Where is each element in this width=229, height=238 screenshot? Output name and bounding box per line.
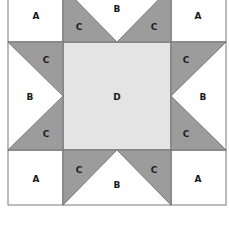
label-c-bottom-left: C	[76, 165, 83, 175]
label-b-left: B	[27, 92, 34, 102]
square-a-top-right	[171, 0, 226, 42]
label-b-top: B	[114, 4, 121, 14]
label-c-top-left: C	[76, 22, 83, 32]
label-d-center: D	[113, 92, 120, 102]
label-c-top-right: C	[151, 22, 158, 32]
label-a-top-right: A	[195, 11, 202, 21]
label-c-left-bottom: C	[43, 129, 50, 139]
quilt-block-diagram: A A A A B B B B C C C C C C C C D	[0, 0, 229, 238]
label-c-bottom-right: C	[151, 165, 158, 175]
label-c-right-top: C	[183, 55, 190, 65]
label-b-right: B	[200, 92, 207, 102]
square-a-top-left	[8, 0, 63, 42]
label-a-bottom-right: A	[195, 174, 202, 184]
label-a-bottom-left: A	[33, 174, 40, 184]
label-c-right-bottom: C	[183, 129, 190, 139]
label-b-bottom: B	[114, 180, 121, 190]
label-a-top-left: A	[33, 11, 40, 21]
label-c-left-top: C	[43, 55, 50, 65]
